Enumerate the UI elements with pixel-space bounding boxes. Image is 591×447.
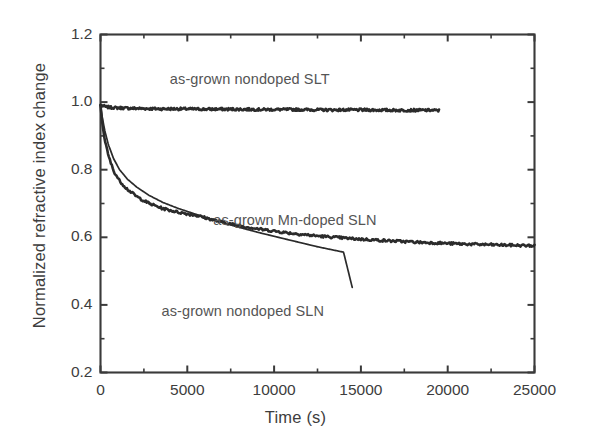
y-tick-label: 0.2 [37, 363, 93, 381]
x-tick-label: 15000 [339, 381, 382, 399]
anno-sln: as-grown nondoped SLN [162, 303, 325, 319]
x-axis-label: Time (s) [0, 408, 591, 427]
x-tick-label: 25000 [513, 381, 556, 399]
x-tick-label: 0 [96, 381, 105, 399]
x-tick-label: 10000 [253, 381, 296, 399]
anno-slt: as-grown nondoped SLT [170, 71, 330, 87]
y-tick-label: 1.0 [37, 92, 93, 110]
anno-mn-sln: as-grown Mn-doped SLN [213, 212, 376, 228]
y-tick-label: 0.8 [37, 160, 93, 178]
y-tick-label: 0.6 [37, 227, 93, 245]
y-tick-label: 1.2 [37, 25, 93, 43]
data-series-layer [101, 105, 535, 288]
y-tick-label: 0.4 [37, 295, 93, 313]
data-series-line [101, 105, 440, 112]
x-tick-label: 20000 [426, 381, 469, 399]
x-tick-label: 5000 [170, 381, 204, 399]
figure-container: Normalized refractive index change Time … [0, 0, 591, 447]
